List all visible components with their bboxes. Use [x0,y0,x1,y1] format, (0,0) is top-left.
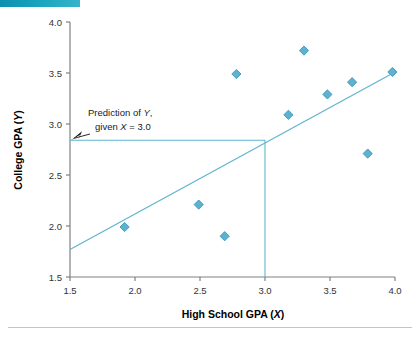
scatter-plot-svg: 1.52.02.53.03.54.01.52.02.53.03.54.0 Hig… [0,0,420,339]
tick-labels-group: 1.52.02.53.03.54.01.52.02.53.03.54.0 [49,17,402,297]
y-tick-label: 3.5 [49,68,62,79]
axes-group [66,22,395,281]
x-tick-label: 3.0 [258,285,271,296]
data-point-marker [323,90,332,99]
annotation-line-2: given X = 3.0 [95,121,151,132]
annotation-arrow-group [71,131,90,140]
y-tick-label: 1.5 [49,272,62,283]
x-axis-title: High School GPA (X) [182,308,285,320]
chart-figure: 1.52.02.53.03.54.01.52.02.53.03.54.0 Hig… [0,0,420,339]
annotation-arrow-head [71,131,82,140]
regression-line [70,72,395,249]
data-point-marker [194,200,203,209]
data-points-group [120,46,397,241]
data-point-marker [363,149,372,158]
x-tick-label: 3.5 [323,285,336,296]
data-point-marker [299,46,308,55]
y-tick-label: 4.0 [49,17,62,28]
annotation-line-1: Prediction of Y, [88,107,152,118]
footer-divider [8,327,412,328]
y-tick-label: 2.0 [49,221,62,232]
y-tick-label: 3.0 [49,119,62,130]
data-point-marker [120,222,129,231]
data-point-marker [220,232,229,241]
prediction-lines-group [70,140,265,277]
data-point-marker [348,78,357,87]
x-tick-label: 1.5 [63,285,76,296]
x-tick-label: 2.5 [193,285,206,296]
regression-line-group [70,72,395,249]
data-point-marker [232,69,241,78]
x-tick-label: 2.0 [128,285,141,296]
data-point-marker [284,110,293,119]
x-tick-label: 4.0 [388,285,401,296]
y-tick-label: 2.5 [49,170,62,181]
y-axis-title: College GPA (Y) [12,110,24,189]
